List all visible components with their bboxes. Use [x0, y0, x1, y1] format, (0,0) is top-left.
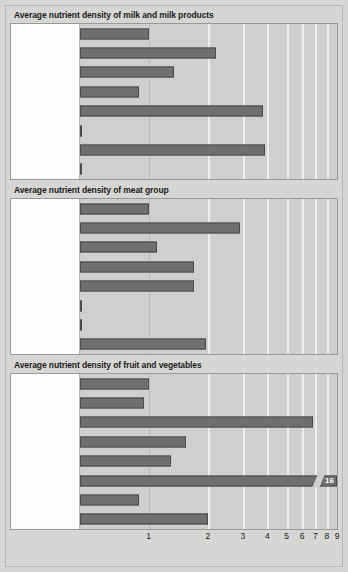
bar-calcium: [80, 319, 82, 330]
x-tick-7: 7: [313, 531, 318, 541]
panel-title-meat: Average nutrient density of meat group: [10, 185, 338, 198]
bar-track: [80, 144, 337, 155]
bar-vitamin-a: [80, 417, 313, 428]
bar-riboflavin: [80, 456, 171, 467]
bar-iron: [80, 514, 208, 525]
bar-thiamin: [80, 261, 194, 272]
panel-title-milk: Average nutrient density of milk and mil…: [10, 10, 338, 23]
x-axis: 123456789: [10, 530, 338, 544]
bar-track: [80, 300, 337, 311]
x-tick-6: 6: [300, 531, 305, 541]
bar-track: [80, 203, 337, 214]
figure-page: Average nutrient density of milk and mil…: [0, 0, 348, 572]
bar-track: [80, 514, 337, 525]
bar-track: [80, 67, 337, 78]
bar-track: [80, 164, 337, 175]
x-tick-5: 5: [284, 531, 289, 541]
bar-track: [80, 48, 337, 59]
nutrient-density-figure: Average nutrient density of milk and mil…: [10, 10, 338, 562]
bar-track: [80, 494, 337, 505]
bar-riboflavin: [80, 106, 263, 117]
bar-value-label: 16: [325, 476, 334, 485]
bar-iron: [80, 164, 82, 175]
panel-meat: Average nutrient density of meat group E…: [10, 185, 338, 360]
bar-track: [80, 242, 337, 253]
panel-title-fruit-vegetables: Average nutrient density of fruit and ve…: [10, 360, 338, 373]
bar-track: [80, 261, 337, 272]
bar-iron: [80, 339, 206, 350]
bar-energy: [80, 203, 149, 214]
bar-energy: [80, 28, 149, 39]
bar-track: [80, 436, 337, 447]
bar-vitamin-c: [80, 300, 82, 311]
bar-calcium: [80, 494, 139, 505]
gridline-9: [337, 24, 338, 179]
category-label-column: [11, 199, 80, 354]
x-tick-2: 2: [206, 531, 211, 541]
bar-energy: [80, 378, 149, 389]
bar-track: [80, 28, 337, 39]
bar-track: [80, 339, 337, 350]
bar-protein: [80, 398, 144, 409]
panel-fruit-vegetables: Average nutrient density of fruit and ve…: [10, 360, 338, 552]
x-tick-9: 9: [335, 531, 340, 541]
bar-calcium: [80, 144, 265, 155]
x-tick-8: 8: [325, 531, 330, 541]
bar-track: [80, 417, 337, 428]
bar-track: [80, 398, 337, 409]
x-axis-ticks: 123456789: [80, 530, 337, 544]
bar-track: [80, 223, 337, 234]
bar-thiamin: [80, 436, 186, 447]
bar-track: [80, 125, 337, 136]
x-tick-3: 3: [240, 531, 245, 541]
category-label-column: [11, 374, 80, 529]
bar-protein: [80, 223, 240, 234]
gridline-9: [337, 199, 338, 354]
bar-vitamin-a: [80, 67, 174, 78]
plot-meat: EnergyProteinVitamin AThiaminRiboflavinV…: [10, 198, 338, 355]
bar-track: [80, 319, 337, 330]
category-label-column: [11, 24, 80, 179]
bar-track: [80, 106, 337, 117]
panel-milk: Average nutrient density of milk and mil…: [10, 10, 338, 185]
bar-riboflavin: [80, 281, 194, 292]
plot-milk: EnergyProteinVitamin AThiaminRiboflavinV…: [10, 23, 338, 180]
bar-track: [80, 86, 337, 97]
bar-thiamin: [80, 86, 139, 97]
bar-protein: [80, 48, 216, 59]
gridline-9: [337, 374, 338, 529]
bar-track: [80, 378, 337, 389]
bar-vitamin-c: [80, 125, 82, 136]
x-tick-4: 4: [265, 531, 270, 541]
bar-vitamin-c: 16: [80, 475, 337, 486]
bar-track: [80, 281, 337, 292]
x-tick-1: 1: [146, 531, 151, 541]
bar-vitamin-a: [80, 242, 157, 253]
bar-track: 16: [80, 475, 337, 486]
bar-track: [80, 456, 337, 467]
plot-fruit-vegetables: EnergyProteinVitamin AThiaminRiboflavinV…: [10, 373, 338, 530]
